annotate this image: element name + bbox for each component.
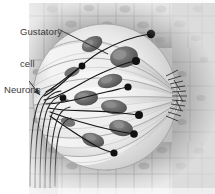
bottom-margin-mask <box>0 188 215 194</box>
top-margin-mask <box>0 0 215 3</box>
taste-bud-figure: Gustatory cell Neurons <box>0 0 215 194</box>
label-neurons: Neurons <box>4 64 41 117</box>
label-gustatory-cell-line1: Gustatory <box>20 27 62 38</box>
label-neurons-line1: Neurons <box>4 85 41 96</box>
